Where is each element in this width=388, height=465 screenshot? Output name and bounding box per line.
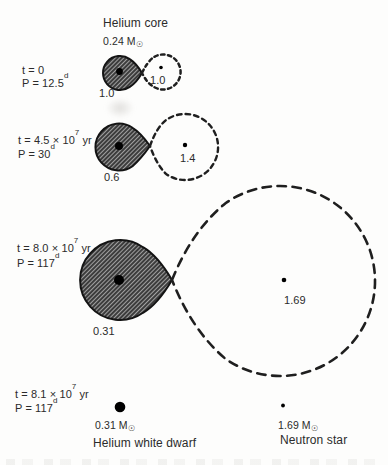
- stage2-time-unit: yr: [79, 134, 92, 146]
- stage1-accretor-star-dot: [159, 66, 163, 70]
- stage2-time-exponent: 7: [75, 128, 79, 137]
- stage1-donor-mass-label: 1.0: [99, 87, 115, 100]
- stage2-time-base: t = 4.5 × 10: [18, 134, 75, 146]
- stage2-accretor-mass-label: 1.4: [180, 152, 196, 165]
- stage4-period-label: P = 117d: [15, 400, 57, 414]
- stage4-donor-mass-label: 0.31 M☉: [95, 419, 135, 431]
- stage1-period-label: P = 12.5d: [22, 75, 68, 89]
- stage3-donor-star-dot: [114, 275, 124, 285]
- stage4-accretor-mass-label: 1.69 M☉: [278, 419, 318, 431]
- stage3-donor-lobe: [80, 240, 172, 320]
- helium-core-label-text: Helium core: [103, 16, 168, 30]
- helium-core-mass-value: 0.24 M: [103, 35, 136, 47]
- stage3-accretor-lobe: [172, 186, 375, 376]
- stage3-time-base: t = 8.0 × 10: [17, 242, 74, 254]
- stage4-accretor-mass-value: 1.69 M: [278, 419, 311, 431]
- stage4-time-label: t = 8.1 × 107 yr: [15, 386, 89, 400]
- stage3-accretor-star-dot: [282, 278, 287, 283]
- binary-evolution-figure: Helium core 0.24 M☉ t = 0 P = 12.5d 1.0 …: [0, 0, 388, 465]
- stage2-accretor-lobe: [150, 114, 218, 180]
- stage4-remnants: [115, 402, 285, 413]
- stage4-neutron-star-dot: [281, 404, 285, 408]
- stage2-period-label: P = 30d: [18, 146, 55, 160]
- stage3-accretor-mass-label: 1.69: [284, 294, 306, 307]
- stage1-period-exponent: d: [64, 71, 68, 80]
- solar-mass-icon: ☉: [311, 424, 318, 433]
- stage2-period-base: P = 30: [18, 148, 51, 160]
- stage3-period-base: P = 117: [17, 257, 55, 269]
- stage3-period-exponent: d: [55, 251, 59, 260]
- stage4-time-base: t = 8.1 × 10: [15, 388, 72, 400]
- stage4-period-base: P = 117: [15, 402, 53, 414]
- stage1-accretor-mass-label: 1.0: [150, 74, 166, 87]
- stage2-donor-star-dot: [115, 142, 123, 150]
- stage3-time-label: t = 8.0 × 107 yr: [17, 240, 91, 254]
- helium-core-mass-label: 0.24 M☉: [103, 35, 143, 47]
- stage3-time-unit: yr: [78, 242, 91, 254]
- stage4-time-unit: yr: [76, 388, 89, 400]
- helium-white-dwarf-label: Helium white dwarf: [93, 437, 196, 451]
- stage3-period-label: P = 117d: [17, 255, 59, 269]
- stage1-donor-star-dot: [116, 68, 123, 75]
- solar-mass-icon: ☉: [136, 40, 143, 49]
- stage2-donor-mass-label: 0.6: [104, 171, 120, 184]
- stage4-time-exponent: 7: [72, 382, 76, 391]
- stage1-roche-lobes: [103, 55, 181, 91]
- stage1-period-base: P = 12.5: [22, 77, 64, 89]
- stage4-period-exponent: d: [53, 396, 57, 405]
- stage1-time-base: t = 0: [22, 64, 44, 76]
- neutron-star-label: Neutron star: [280, 434, 347, 448]
- stage4-helium-white-dwarf-dot: [115, 402, 126, 413]
- solar-mass-icon: ☉: [128, 424, 135, 433]
- stage2-period-exponent: d: [51, 142, 55, 151]
- stage3-time-exponent: 7: [74, 236, 78, 245]
- stage3-roche-lobes: [80, 186, 375, 376]
- stage3-donor-mass-label: 0.31: [93, 325, 115, 338]
- cropped-caption-remnant: [6, 459, 382, 465]
- stage2-accretor-star-dot: [183, 143, 187, 147]
- helium-core-label: Helium core: [103, 17, 168, 31]
- stage4-donor-mass-value: 0.31 M: [95, 419, 128, 431]
